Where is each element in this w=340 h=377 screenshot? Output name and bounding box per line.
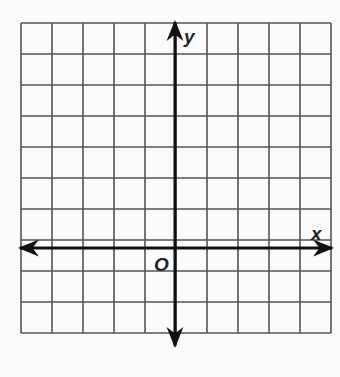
y-axis-label: y — [183, 26, 196, 47]
x-axis-label: x — [310, 223, 323, 244]
coordinate-grid: y x O — [0, 0, 340, 377]
origin-label: O — [154, 254, 169, 275]
